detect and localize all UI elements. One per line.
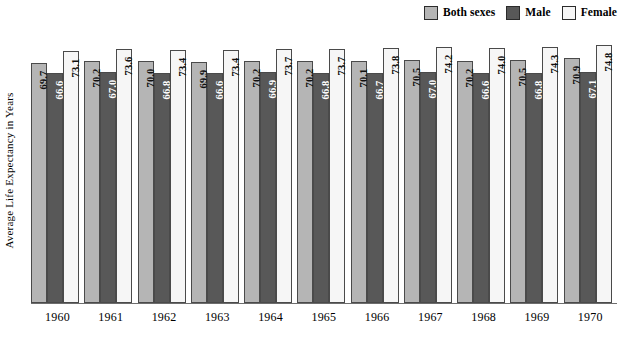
bar-both-sexes-1962: 70.0 [138, 61, 154, 303]
plot-area: 69.766.673.170.267.073.670.066.873.469.9… [31, 28, 617, 304]
x-tick-1967: 1967 [404, 310, 457, 325]
bar-value-label: 73.1 [71, 59, 82, 78]
x-tick-1968: 1968 [457, 310, 510, 325]
bar-value-label: 73.6 [124, 57, 135, 76]
x-tick-1964: 1964 [244, 310, 297, 325]
x-tick-1961: 1961 [84, 310, 137, 325]
bar-group-1961: 70.267.073.6 [84, 49, 137, 303]
bar-female-1967: 74.2 [436, 47, 452, 303]
bar-both-sexes-1960: 69.7 [31, 63, 47, 303]
bar-male-1960: 66.6 [47, 73, 63, 303]
bar-female-1966: 73.8 [383, 48, 399, 303]
x-tick-1970: 1970 [564, 310, 617, 325]
legend-label-both-sexes: Both sexes [443, 7, 495, 19]
bar-group-1965: 70.266.873.7 [297, 49, 350, 303]
bar-both-sexes-1969: 70.5 [510, 60, 526, 303]
bar-female-1965: 73.7 [329, 49, 345, 303]
bar-female-1960: 73.1 [63, 51, 79, 303]
legend-item-female: Female [562, 6, 617, 20]
x-axis-tick-labels: 1960196119621963196419651966196719681969… [31, 310, 617, 332]
bar-both-sexes-1966: 70.1 [351, 61, 367, 303]
bar-both-sexes-1968: 70.2 [457, 61, 473, 303]
legend-swatch-both-sexes [424, 6, 438, 20]
bar-male-1965: 66.8 [313, 73, 329, 303]
bar-chart: Both sexes Male Female Average Life Expe… [0, 0, 625, 341]
bar-female-1962: 73.4 [170, 50, 186, 303]
bar-female-1968: 74.0 [489, 48, 505, 303]
x-axis-baseline [31, 303, 617, 304]
chart-legend: Both sexes Male Female [424, 6, 617, 20]
bar-both-sexes-1967: 70.5 [404, 60, 420, 303]
legend-item-both-sexes: Both sexes [424, 6, 495, 20]
bar-both-sexes-1970: 70.9 [564, 58, 580, 303]
legend-item-male: Male [506, 6, 550, 20]
legend-swatch-female [562, 6, 576, 20]
bar-group-1960: 69.766.673.1 [31, 51, 84, 303]
bar-group-1963: 69.966.673.4 [191, 50, 244, 303]
bar-male-1966: 66.7 [367, 73, 383, 303]
bar-female-1964: 73.7 [276, 49, 292, 303]
bar-female-1963: 73.4 [223, 50, 239, 303]
bar-male-1967: 67.0 [420, 72, 436, 303]
bar-male-1969: 66.8 [526, 73, 542, 303]
bar-male-1968: 66.6 [473, 73, 489, 303]
bar-male-1962: 66.8 [154, 73, 170, 303]
bar-value-label: 74.2 [444, 55, 455, 74]
x-tick-1962: 1962 [138, 310, 191, 325]
x-tick-1965: 1965 [297, 310, 350, 325]
bar-value-label: 73.4 [178, 58, 189, 77]
bar-female-1969: 74.3 [542, 47, 558, 303]
legend-label-female: Female [581, 7, 617, 19]
bar-both-sexes-1961: 70.2 [84, 61, 100, 303]
bar-group-1970: 70.967.174.8 [564, 45, 617, 303]
x-tick-1966: 1966 [351, 310, 404, 325]
bar-value-label: 74.0 [497, 56, 508, 75]
y-axis-title: Average Life Expectancy in Years [0, 0, 18, 341]
bar-male-1961: 67.0 [100, 72, 116, 303]
bar-value-label: 73.4 [231, 58, 242, 77]
bar-group-1968: 70.266.674.0 [457, 48, 510, 303]
bar-value-label: 74.3 [550, 55, 561, 74]
bar-value-label: 73.7 [284, 57, 295, 76]
bar-group-1964: 70.266.973.7 [244, 49, 297, 303]
x-tick-1963: 1963 [191, 310, 244, 325]
bar-group-1966: 70.166.773.8 [351, 48, 404, 303]
bar-female-1970: 74.8 [596, 45, 612, 303]
x-tick-1960: 1960 [31, 310, 84, 325]
bar-male-1964: 66.9 [260, 72, 276, 303]
bar-group-1967: 70.567.074.2 [404, 47, 457, 303]
bar-group-1969: 70.566.874.3 [510, 47, 563, 303]
bar-male-1970: 67.1 [580, 72, 596, 303]
bar-male-1963: 66.6 [207, 73, 223, 303]
legend-label-male: Male [525, 7, 550, 19]
bar-value-label: 73.7 [337, 57, 348, 76]
bar-value-label: 74.8 [604, 53, 615, 72]
bar-group-1962: 70.066.873.4 [138, 50, 191, 303]
x-tick-1969: 1969 [510, 310, 563, 325]
bar-value-label: 73.8 [391, 56, 402, 75]
bar-both-sexes-1964: 70.2 [244, 61, 260, 303]
bar-both-sexes-1965: 70.2 [297, 61, 313, 303]
bar-female-1961: 73.6 [116, 49, 132, 303]
bar-both-sexes-1963: 69.9 [191, 62, 207, 303]
legend-swatch-male [506, 6, 520, 20]
